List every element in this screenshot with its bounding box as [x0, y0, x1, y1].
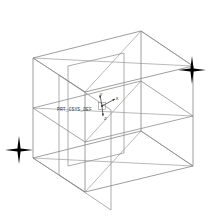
coordinate-system-triad[interactable] [99, 95, 116, 116]
axis-label-x: X [116, 97, 119, 101]
wireframe-model [0, 0, 209, 216]
top-face-diagonals [33, 31, 193, 92]
axis-label-z: Z [104, 117, 107, 121]
datum-point-right[interactable] [178, 56, 206, 84]
star-icon [5, 136, 33, 164]
bottom-face-diagonals [33, 131, 193, 192]
star-icon [178, 56, 206, 84]
cad-viewport[interactable]: PRT_CSYS_DEF Y X Z [0, 0, 209, 216]
csys-name-label: PRT_CSYS_DEF [57, 108, 92, 113]
axis-label-y: Y [100, 93, 103, 97]
datum-point-left[interactable] [5, 136, 33, 164]
